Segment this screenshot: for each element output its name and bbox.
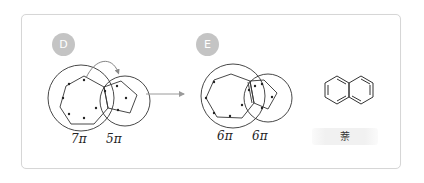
curved-arrow-icon (86, 61, 118, 78)
compound-name-label: 萘 (312, 128, 378, 145)
benzene-ring-right-icon (349, 76, 373, 104)
label-7pi: 7π (71, 132, 87, 146)
label-5pi: 5π (106, 132, 122, 146)
azulene-e-structure (201, 64, 292, 128)
pentagon-icon (104, 81, 137, 113)
circle-7-ring-icon (48, 65, 114, 131)
circle-5-ring-icon (100, 76, 150, 126)
naphthalene-structure (325, 76, 373, 104)
label-6pi-seven-ring: 6π (217, 129, 233, 143)
label-6pi-five-ring: 6π (252, 129, 268, 143)
azulene-d-structure (48, 61, 150, 131)
heptagon-icon (206, 74, 254, 118)
benzene-ring-left-icon (325, 76, 349, 104)
electron-dots-e (205, 81, 273, 117)
resonance-diagram (0, 0, 424, 183)
electron-dots-d (62, 79, 127, 119)
